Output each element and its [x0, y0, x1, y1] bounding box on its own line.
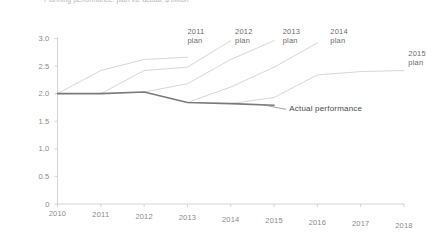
x-axis-label-2016: 2016 [302, 218, 332, 227]
y-axis-label-0-5: 0.5 [24, 172, 50, 181]
y-axis-label-2-5: 2.5 [24, 62, 50, 71]
plan-annotation-2011: 2011 plan [187, 28, 204, 45]
series-line-2011-plan [58, 57, 188, 93]
y-axis-label-0: 0 [24, 200, 50, 209]
y-axis-label-1-5: 1.5 [24, 117, 50, 126]
series-line-2013-plan [144, 41, 274, 92]
y-axis-label-3-0: 3.0 [24, 34, 50, 43]
x-axis-label-2010: 2010 [43, 209, 73, 218]
x-axis-label-2015: 2015 [259, 216, 289, 225]
y-axis-label-2-0: 2.0 [24, 89, 50, 98]
actual-performance-annotation: Actual performance [289, 104, 362, 113]
series-line-2012-plan [101, 41, 231, 94]
x-axis-label-2013: 2013 [172, 213, 202, 222]
x-axis-label-2011: 2011 [86, 210, 116, 219]
plan-annotation-2013: 2013 plan [283, 28, 301, 45]
x-axis-label-2017: 2017 [346, 219, 376, 228]
x-axis-label-2014: 2014 [216, 215, 246, 224]
plan-annotation-2012: 2012 plan [235, 28, 253, 45]
plan-annotation-2015: 2015 plan [408, 50, 426, 67]
y-axis-label-1-0: 1.0 [24, 144, 50, 153]
x-axis-label-2018: 2018 [389, 221, 419, 230]
series-line-actual-performance [58, 92, 275, 105]
x-axis-label-2012: 2012 [129, 212, 159, 221]
plan-annotation-2014: 2014 plan [330, 28, 348, 45]
